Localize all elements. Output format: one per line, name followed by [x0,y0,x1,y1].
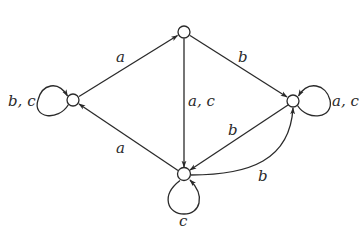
label-self-loop-right: a, c [332,92,359,110]
edge-left-top [79,36,178,97]
state-bottom [178,168,191,181]
state-top [178,26,190,38]
self-loop-bottom [168,180,199,214]
label-bottom-left: a [116,139,125,157]
label-self-loop-bottom: c [179,212,188,230]
self-loop-right [298,86,331,116]
edge-top-right [190,36,287,98]
edge-bottom-left [79,104,178,171]
label-right-bottom: b [228,121,238,139]
diagram-svg: a b a, c a b b b, c a, c c [0,0,359,231]
label-bottom-right-curved: b [258,167,268,185]
label-self-loop-left: b, c [8,92,36,110]
self-loop-left [37,86,68,116]
state-left [67,94,79,106]
edge-right-bottom [190,105,288,170]
state-right [287,95,299,107]
automaton-diagram: a b a, c a b b b, c a, c c [0,0,359,231]
edge-bottom-right-curved [191,108,293,175]
label-top-right: b [238,48,248,66]
label-left-top: a [116,48,125,66]
label-top-bottom: a, c [188,92,215,110]
